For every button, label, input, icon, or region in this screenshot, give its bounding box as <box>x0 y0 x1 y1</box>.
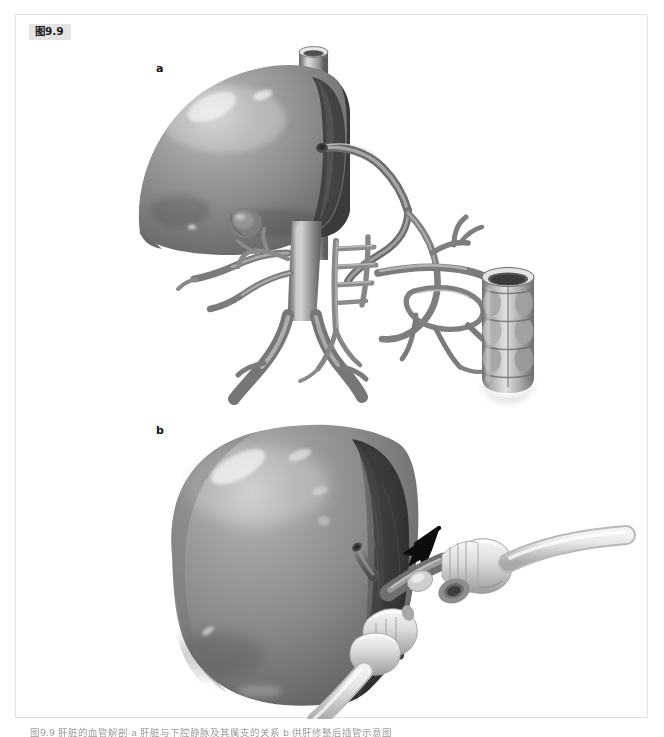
gallbladder <box>228 208 262 238</box>
bowel-segment <box>482 268 534 404</box>
mesenteric-arcade <box>378 213 504 372</box>
perfusion-cannulas <box>314 532 626 719</box>
left-branch-vessels <box>178 229 290 309</box>
figure-number-badge: 图9.9 <box>29 24 71 40</box>
panel-b-illustration <box>168 425 626 719</box>
figure-caption: 图9.9 肝脏的血管解剖 a 肝脏与下腔静脉及其属支的关系 b 供肝修整后插管示… <box>30 727 630 737</box>
figure-illustration <box>16 15 649 719</box>
figure-page: 图9.9 a b <box>0 0 664 737</box>
hilar-vessel-stubs <box>350 541 444 662</box>
aorta-trunk <box>288 221 322 321</box>
central-vessel-network <box>300 237 376 381</box>
figure-panel-frame: 图9.9 a b <box>15 14 648 718</box>
panel-letter-a: a <box>156 62 163 75</box>
panel-letter-b: b <box>156 424 164 437</box>
illustration-svg <box>16 15 649 719</box>
iliac-bifurcation <box>234 315 366 399</box>
panel-a-illustration <box>139 47 534 403</box>
liver-graft <box>168 425 418 706</box>
inferior-vena-cava <box>299 47 328 260</box>
liver-organ-panel-a <box>139 65 350 255</box>
indicator-arrow <box>402 527 440 569</box>
hepatic-hilar-vessels <box>316 143 408 281</box>
